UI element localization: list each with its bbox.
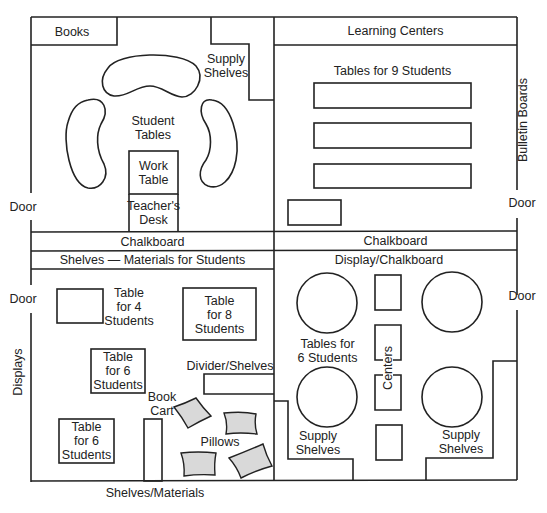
chalkboard-band-bottom <box>31 250 517 251</box>
chalkboard-label-right: Chalkboard <box>274 234 517 248</box>
book-cart-label-line1: Book <box>142 390 182 404</box>
teachers-desk-label-line2: Desk <box>123 213 184 227</box>
center-box-1 <box>375 275 401 310</box>
displays-label: Displays <box>11 342 25 402</box>
work-table-label-line2: Table <box>129 173 178 187</box>
table-for-8-label-line1: Table <box>183 294 256 308</box>
kidney-table-right <box>200 100 237 187</box>
pillow-3 <box>181 452 216 476</box>
round-table-3 <box>297 367 357 427</box>
student-tables-label-line1: Student <box>123 114 183 128</box>
divider-shelves-outline <box>204 374 274 394</box>
small-table-top-right <box>288 200 341 225</box>
table-for-9-2 <box>314 123 471 148</box>
table-for-6-a-label-line2: for 6 <box>91 364 145 378</box>
door-label-top-right: Door <box>502 196 542 210</box>
book-cart-outline <box>144 419 162 481</box>
kidney-table-left <box>66 99 106 188</box>
round-table-4 <box>422 367 482 427</box>
center-box-4 <box>376 425 402 460</box>
work-table-label-line1: Work <box>129 159 178 173</box>
table-for-9-3 <box>314 164 471 188</box>
door-label-bottom-right: Door <box>502 289 542 303</box>
classroom-floor-plan: Books Supply Shelves Student Tables Work… <box>0 0 547 513</box>
table-for-6-a-label-line1: Table <box>91 350 145 364</box>
book-cart-label-line2: Cart <box>142 404 182 418</box>
supply-shelves-label-right-line2: Shelves <box>436 442 486 456</box>
table-for-6-b-label-line2: for 6 <box>59 434 114 448</box>
table-for-6-b-label-line1: Table <box>59 420 114 434</box>
tables-for-6-label-line1: Tables for <box>290 337 365 351</box>
tables-for-6-label-line2: 6 Students <box>290 351 365 365</box>
books-label: Books <box>42 25 102 39</box>
table-for-6-b-label-line3: Students <box>59 448 114 462</box>
table-for-4-outline <box>57 289 103 323</box>
student-tables-label-line2: Tables <box>123 128 183 142</box>
table-for-8-label-line2: for 8 <box>183 308 256 322</box>
supply-shelves-label-left-line2: Shelves <box>293 443 343 457</box>
supply-shelves-label-right-line1: Supply <box>436 428 486 442</box>
door-label-top-left: Door <box>3 200 43 214</box>
supply-shelves-label-left-line1: Supply <box>293 429 343 443</box>
door-label-bottom-left: Door <box>3 292 43 306</box>
kidney-table-top <box>102 55 200 97</box>
pillows-label: Pillows <box>195 435 245 449</box>
teachers-desk-label-line1: Teacher's <box>123 199 184 213</box>
table-for-4-label-line3: Students <box>104 314 154 328</box>
round-table-2 <box>422 272 482 332</box>
tables-for-9-label: Tables for 9 Students <box>314 64 471 78</box>
display-chalkboard-label: Display/Chalkboard <box>314 253 464 267</box>
chalkboard-label-left: Chalkboard <box>31 235 274 249</box>
table-for-4-label-line1: Table <box>104 286 154 300</box>
pillow-2 <box>224 412 257 434</box>
chalkboard-band-top <box>31 231 517 232</box>
shelves-materials-label-bottom: Shelves/Materials <box>100 486 210 500</box>
table-for-9-1 <box>314 83 471 108</box>
table-for-4-label-line2: for 4 <box>104 300 154 314</box>
centers-label: Centers <box>381 343 395 393</box>
learning-centers-label: Learning Centers <box>274 24 517 38</box>
round-table-1 <box>297 273 357 333</box>
shelves-materials-band-label: Shelves — Materials for Students <box>31 253 274 267</box>
table-for-8-label-line3: Students <box>183 322 256 336</box>
bulletin-boards-label: Bulletin Boards <box>516 75 530 165</box>
divider-shelves-label: Divider/Shelves <box>185 359 275 373</box>
supply-shelves-label-top-line1: Supply <box>196 52 256 66</box>
supply-shelves-label-top-line2: Shelves <box>196 66 256 80</box>
table-for-6-a-label-line3: Students <box>91 378 145 392</box>
pillow-4 <box>229 444 272 478</box>
